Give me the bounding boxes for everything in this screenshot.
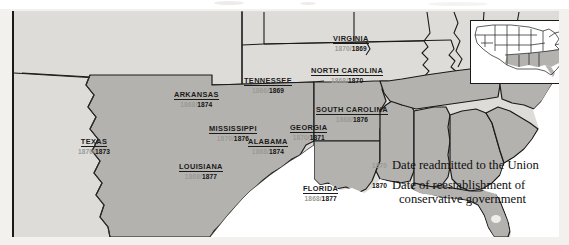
state-label-tennessee: TENNESSEE 1866/1869 xyxy=(244,70,292,95)
map-frame: 1870 Date readmitted to the Union 1870 D… xyxy=(12,11,559,237)
lake-okeechobee xyxy=(491,215,501,223)
legend-label-conservative: Date of reestablishment of conservative … xyxy=(392,178,526,207)
state-label-georgia: GEORGIA 1870/1871 xyxy=(290,117,327,142)
state-label-louisiana: LOUISIANA 1868/1877 xyxy=(179,156,223,181)
legend-label-readmitted: Date readmitted to the Union xyxy=(392,158,539,173)
inset-locator-map xyxy=(470,20,559,84)
state-dates: 1870/1873 xyxy=(78,149,110,156)
state-dates: 1868/1874 xyxy=(248,149,288,156)
state-dates: 1866/1869 xyxy=(244,88,292,95)
reconstruction-map-figure: 1870 Date readmitted to the Union 1870 D… xyxy=(0,0,569,245)
legend-item: 1870 Date readmitted to the Union xyxy=(365,158,539,173)
state-name: TEXAS xyxy=(81,138,107,147)
legend-item: 1870 Date of reestablishment of conserva… xyxy=(365,178,539,207)
legend-year-conservative: 1870 xyxy=(365,178,392,189)
state-dates: 1868/1877 xyxy=(179,174,223,181)
state-label-texas: TEXAS 1870/1873 xyxy=(78,131,110,156)
state-name: NORTH CAROLINA xyxy=(311,67,383,76)
state-dates: 1870/1869 xyxy=(333,46,369,53)
state-label-north-carolina: NORTH CAROLINA 1868/1870 xyxy=(311,60,383,85)
map-legend: 1870 Date readmitted to the Union 1870 D… xyxy=(365,158,539,212)
inset-us-map xyxy=(471,21,559,83)
state-name: VIRGINIA xyxy=(333,35,369,44)
state-dates: 1868/1877 xyxy=(303,196,338,203)
state-name: SOUTH CAROLINA xyxy=(316,106,388,115)
state-label-virginia: VIRGINIA 1870/1869 xyxy=(333,28,369,53)
scan-smudge xyxy=(300,2,316,5)
state-name: LOUISIANA xyxy=(179,163,223,172)
state-dates: 1868/1874 xyxy=(174,102,219,109)
state-name: TENNESSEE xyxy=(244,77,292,86)
state-dates: 1870/1871 xyxy=(290,135,327,142)
legend-year-readmitted: 1870 xyxy=(365,158,392,169)
state-label-florida: FLORIDA 1868/1877 xyxy=(303,178,338,203)
state-name: ALABAMA xyxy=(248,138,288,147)
state-name: ARKANSAS xyxy=(174,91,219,100)
state-name: FLORIDA xyxy=(303,185,338,194)
scan-smudge xyxy=(428,2,488,6)
state-name: GEORGIA xyxy=(290,124,327,133)
state-label-arkansas: ARKANSAS 1868/1874 xyxy=(174,84,219,109)
state-dates: 1868/1870 xyxy=(311,78,383,85)
state-label-alabama: ALABAMA 1868/1874 xyxy=(248,131,288,156)
scan-smudge xyxy=(214,1,244,5)
